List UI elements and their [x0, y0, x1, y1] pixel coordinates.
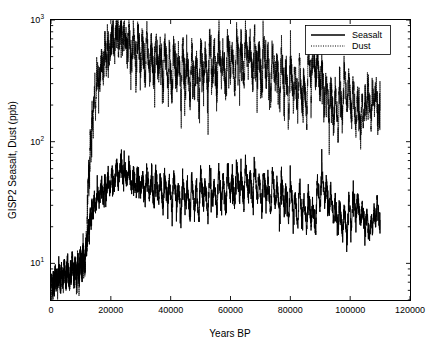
x-tick-label: 80000	[278, 305, 303, 315]
y-axis-title: GISP2 Seasalt, Dust (ppb)	[7, 101, 18, 219]
x-tick-label: 40000	[158, 305, 183, 315]
x-tick-label: 120000	[395, 305, 425, 315]
x-tick-label: 0	[48, 305, 53, 315]
x-tick-label: 20000	[98, 305, 123, 315]
legend-label-dust: Dust	[352, 41, 371, 51]
x-tick-label: 100000	[335, 305, 365, 315]
chart-legend: Seasalt Dust	[306, 26, 391, 55]
x-tick-label: 60000	[218, 305, 243, 315]
chart-figure: 020000400006000080000100000120000 101102…	[0, 0, 431, 350]
chart-canvas: 020000400006000080000100000120000 101102…	[0, 0, 431, 350]
legend-label-seasalt: Seasalt	[352, 30, 383, 40]
x-axis-title: Years BP	[209, 328, 251, 339]
